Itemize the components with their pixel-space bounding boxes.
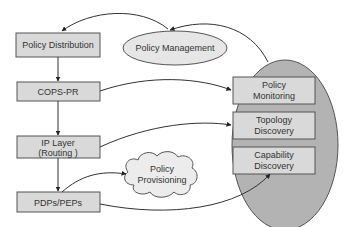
policy-provisioning-label-2: Provisioning — [137, 175, 186, 185]
policy-monitoring-label-1: Policy — [262, 80, 287, 90]
policy-management-label: Policy Management — [135, 43, 215, 53]
arrow-ip-to-topology — [100, 123, 231, 147]
capability-discovery-box: Capability Discovery — [233, 147, 315, 174]
ip-layer-label-2: (Routing ) — [38, 148, 78, 158]
policy-monitoring-box: Policy Monitoring — [233, 77, 315, 104]
policy-management-ellipse: Policy Management — [123, 31, 227, 65]
policy-architecture-diagram: Policy Monitoring Topology Discovery Cap… — [0, 0, 343, 227]
arrow-pdps-to-provisioning — [62, 173, 126, 192]
topology-discovery-box: Topology Discovery — [233, 112, 315, 139]
pdps-peps-label: PDPs/PEPs — [34, 198, 83, 208]
pdps-peps-box: PDPs/PEPs — [17, 192, 100, 212]
policy-provisioning-label-1: Policy — [150, 164, 175, 174]
topology-discovery-label-1: Topology — [256, 115, 293, 125]
cops-pr-label: COPS-PR — [37, 87, 79, 97]
arrow-management-to-distribution — [62, 13, 168, 31]
capability-discovery-label-2: Discovery — [254, 161, 294, 171]
policy-monitoring-label-2: Monitoring — [253, 91, 295, 101]
arrow-cops-to-monitoring — [100, 80, 231, 91]
ip-layer-box: IP Layer (Routing ) — [17, 136, 100, 158]
policy-provisioning-cloud: Policy Provisioning — [125, 152, 197, 198]
policy-distribution-label: Policy Distribution — [22, 40, 94, 50]
ip-layer-label-1: IP Layer — [41, 138, 74, 148]
cops-pr-box: COPS-PR — [17, 82, 100, 101]
topology-discovery-label-2: Discovery — [254, 126, 294, 136]
capability-discovery-label-1: Capability — [254, 150, 294, 160]
policy-distribution-box: Policy Distribution — [16, 33, 100, 57]
